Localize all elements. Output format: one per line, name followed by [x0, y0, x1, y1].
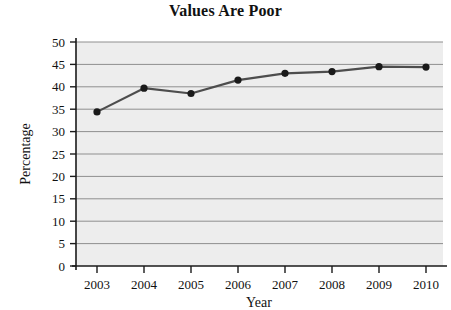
- data-point-marker: [234, 76, 241, 83]
- y-tick-label: 20: [52, 169, 65, 184]
- data-point-marker: [281, 70, 288, 77]
- y-tick-label: 5: [59, 236, 66, 251]
- x-tick-label: 2008: [319, 277, 345, 292]
- y-tick-label: 45: [52, 57, 65, 72]
- data-point-marker: [93, 108, 100, 115]
- y-tick-label: 40: [52, 79, 65, 94]
- x-tick-label: 2007: [272, 277, 299, 292]
- data-point-marker: [187, 90, 194, 97]
- x-axis-ticks: 20032004200520062007200820092010: [84, 266, 439, 292]
- data-point-marker: [422, 63, 429, 70]
- data-point-marker: [140, 85, 147, 92]
- x-tick-label: 2010: [413, 277, 439, 292]
- chart-figure: Values Are Poor 05101520253035404550 200…: [0, 0, 451, 310]
- y-tick-label: 15: [52, 191, 65, 206]
- line-chart-plot: 05101520253035404550 2003200420052006200…: [0, 0, 451, 310]
- x-tick-label: 2006: [225, 277, 252, 292]
- y-axis-title: Percentage: [18, 123, 33, 184]
- y-tick-label: 10: [52, 214, 65, 229]
- x-axis-title: Year: [246, 295, 272, 310]
- y-tick-label: 0: [59, 259, 66, 274]
- y-axis-ticks: 05101520253035404550: [52, 35, 76, 274]
- data-point-marker: [328, 68, 335, 75]
- x-tick-label: 2005: [178, 277, 204, 292]
- x-tick-label: 2009: [366, 277, 392, 292]
- y-tick-label: 35: [52, 102, 65, 117]
- y-tick-label: 25: [52, 147, 65, 162]
- x-tick-label: 2003: [84, 277, 110, 292]
- y-tick-label: 30: [52, 124, 65, 139]
- y-tick-label: 50: [52, 35, 65, 50]
- x-tick-label: 2004: [131, 277, 158, 292]
- data-point-marker: [375, 63, 382, 70]
